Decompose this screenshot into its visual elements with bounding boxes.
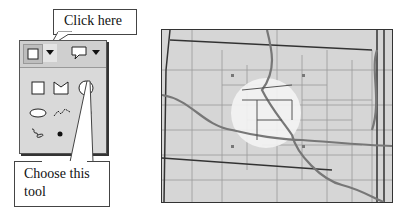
speech-bubble-icon (71, 46, 87, 60)
callout-line-1: Choose this (24, 166, 90, 182)
county-map-image (162, 30, 392, 202)
dropdown-arrow-icon (92, 50, 100, 56)
ellipse-tool-icon (29, 108, 47, 118)
rectangle-button[interactable] (23, 44, 43, 64)
freehand-polygon-tool[interactable] (29, 126, 45, 142)
callout-choose-tool: Choose this tool (14, 161, 110, 207)
callout-button[interactable] (70, 44, 88, 62)
freehand-polygon-tool-icon (30, 127, 44, 141)
callout-pointer-bottom (60, 78, 100, 163)
rectangle-tool-icon (31, 81, 45, 95)
rectangle-icon (27, 48, 39, 60)
shape-dropdown-button[interactable] (43, 44, 57, 62)
dropdown-arrow-icon (46, 50, 54, 56)
toolbar (20, 41, 106, 68)
callout-line-2: tool (24, 184, 46, 200)
rectangle-tool[interactable] (30, 80, 46, 96)
callout-dropdown-button[interactable] (90, 44, 102, 62)
ellipse-tool[interactable] (29, 106, 47, 120)
map-view[interactable] (161, 29, 393, 203)
callout-text: Click here (64, 13, 122, 29)
